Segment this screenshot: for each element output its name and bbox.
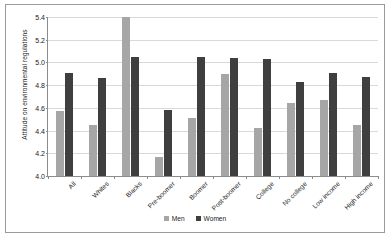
x-axis-tick-mark: [180, 176, 181, 179]
x-axis-tick-label: Pre-boomer: [146, 180, 176, 210]
bar-men-low-income: [320, 100, 328, 176]
legend-label-women: Women: [204, 215, 227, 222]
x-axis-tick-label: All: [67, 180, 77, 190]
legend-item-women[interactable]: Women: [196, 215, 227, 222]
bar-group: [114, 17, 147, 176]
bar-men-blacks: [122, 17, 130, 176]
x-axis-tick-label: Low income: [311, 180, 341, 210]
y-axis-tick-label: 4.0: [35, 173, 45, 180]
legend-item-men[interactable]: Men: [164, 215, 185, 222]
bar-group: [180, 17, 213, 176]
x-axis-tick-label: College: [254, 180, 275, 201]
x-axis-tick-mark: [345, 176, 346, 179]
bar-women-low-income: [329, 73, 337, 176]
x-axis-tick-label: Whites: [90, 180, 109, 199]
legend-swatch-men: [164, 216, 169, 221]
bar-men-college: [254, 128, 262, 176]
x-axis-tick-label: High income: [343, 180, 374, 211]
x-axis-tick-label: Blacks: [124, 180, 143, 199]
bar-group: [246, 17, 279, 176]
x-axis-tick-mark: [279, 176, 280, 179]
x-axis-tick-mark: [147, 176, 148, 179]
y-axis-tick-label: 5.2: [35, 36, 45, 43]
bar-group: [213, 17, 246, 176]
plot-area: 4.04.24.44.64.85.05.25.4AllWhitesBlacksP…: [47, 17, 378, 177]
bar-men-high-income: [353, 125, 361, 176]
bar-group: [279, 17, 312, 176]
bar-men-whites: [89, 125, 97, 176]
x-axis-tick-label: Boomer: [187, 180, 208, 201]
x-axis-tick-mark: [213, 176, 214, 179]
bar-men-post-boomer: [221, 74, 229, 176]
y-axis-tick-label: 4.2: [35, 150, 45, 157]
bar-women-post-boomer: [230, 58, 238, 176]
x-axis-tick-mark: [81, 176, 82, 179]
bar-women-boomer: [197, 57, 205, 176]
x-axis-tick-mark: [378, 176, 379, 179]
bar-men-no-college: [287, 103, 295, 176]
bar-men-boomer: [188, 118, 196, 176]
bar-women-no-college: [296, 82, 304, 176]
bar-group: [81, 17, 114, 176]
x-axis-tick-label: Post-boomer: [210, 180, 242, 212]
bar-group: [312, 17, 345, 176]
y-axis-tick-label: 4.4: [35, 127, 45, 134]
chart-legend: MenWomen: [6, 215, 384, 222]
chart-container: Attitude on environmental regulations 4.…: [5, 4, 385, 233]
bar-group: [48, 17, 81, 176]
x-axis-tick-label: No college: [281, 180, 308, 207]
x-axis-tick-mark: [312, 176, 313, 179]
legend-label-men: Men: [172, 215, 185, 222]
x-axis-tick-mark: [114, 176, 115, 179]
bar-women-pre-boomer: [164, 110, 172, 176]
bar-women-whites: [98, 78, 106, 176]
y-axis-tick-label: 5.4: [35, 14, 45, 21]
bar-women-all: [65, 73, 73, 176]
bar-women-blacks: [131, 57, 139, 176]
legend-swatch-women: [196, 216, 201, 221]
bar-women-college: [263, 59, 271, 176]
bar-women-high-income: [362, 77, 370, 176]
y-axis-title: Attitude on environmental regulations: [21, 5, 28, 165]
x-axis-tick-mark: [48, 176, 49, 179]
y-axis-tick-label: 5.0: [35, 59, 45, 66]
y-axis-tick-label: 4.8: [35, 82, 45, 89]
bar-men-pre-boomer: [155, 157, 163, 176]
y-axis-tick-label: 4.6: [35, 104, 45, 111]
x-axis-tick-mark: [246, 176, 247, 179]
bar-men-all: [56, 111, 64, 176]
bar-group: [147, 17, 180, 176]
chart-plot-wrapper: Attitude on environmental regulations 4.…: [6, 5, 384, 232]
bar-group: [345, 17, 378, 176]
